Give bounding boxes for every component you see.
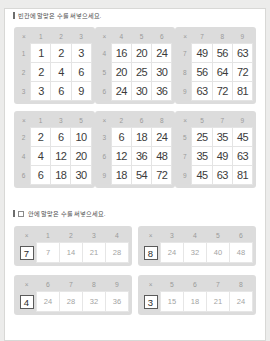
product-cell: 2 (31, 128, 51, 147)
multiplication-table: ×26836182461236489185472 (95, 111, 176, 188)
answer-input-box[interactable]: 4 (20, 295, 34, 309)
row-header: 6 (98, 147, 112, 166)
table-row: 2246 (17, 63, 91, 82)
column-header: 4 (184, 229, 207, 243)
column-header: 2 (60, 229, 83, 243)
product-cell: 6 (71, 63, 91, 82)
product-cell: 21 (83, 243, 106, 263)
product-cell: 36 (152, 82, 172, 101)
table-row: 9637281 (178, 82, 252, 101)
answer-cell-wrapper: 8 (141, 243, 161, 263)
section-one-heading: 빈칸에 알맞은 수를 써넣으세요. (5, 9, 265, 22)
product-cell: 25 (192, 128, 212, 147)
answer-input-box[interactable]: 8 (144, 246, 158, 260)
table-row: 5202530 (98, 63, 172, 82)
column-header: 6 (230, 229, 253, 243)
times-symbol-header: × (17, 229, 37, 243)
table-row: 6243036 (98, 82, 172, 101)
row-header: 5 (178, 128, 192, 147)
column-header: 6 (131, 114, 151, 128)
column-header: 1 (37, 229, 60, 243)
table-row: 9456381 (178, 166, 252, 185)
table-header-row: ×456 (98, 30, 172, 44)
multiplication-table: ×13522610441220661830 (14, 111, 95, 188)
product-cell: 18 (111, 166, 131, 185)
multiplication-table: ×789749566385664729637281 (175, 27, 256, 104)
worksheet-page: 빈칸에 알맞은 수를 써넣으세요. ×123112322463369 ×4564… (4, 8, 266, 341)
product-cell: 15 (161, 292, 184, 312)
fill-in-table: ×3456824324048 (138, 226, 256, 266)
product-cell: 18 (51, 166, 71, 185)
column-header: 5 (131, 30, 151, 44)
product-cell: 63 (212, 166, 232, 185)
product-cell: 35 (192, 147, 212, 166)
answer-input-box[interactable]: 3 (144, 295, 158, 309)
column-header: 7 (207, 278, 230, 292)
table-row: 361824 (98, 128, 172, 147)
column-header: 8 (230, 278, 253, 292)
row-header: 9 (178, 166, 192, 185)
row-header: 8 (178, 63, 192, 82)
table-row: 7495663 (178, 44, 252, 63)
column-header: 3 (51, 114, 71, 128)
product-cell: 20 (111, 63, 131, 82)
product-cell: 16 (111, 44, 131, 63)
table-header-row: ×3456 (141, 229, 253, 243)
section-two-heading: 안에 알맞은 수를 써넣으세요. (5, 207, 265, 220)
product-cell: 12 (51, 147, 71, 166)
product-cell: 24 (111, 82, 131, 101)
row-header: 2 (17, 128, 31, 147)
table-row: 7354963 (178, 147, 252, 166)
product-cell: 81 (232, 166, 252, 185)
product-cell: 25 (131, 63, 151, 82)
column-header: 6 (152, 30, 172, 44)
table-row: 661830 (17, 166, 91, 185)
product-cell: 9 (71, 82, 91, 101)
product-cell: 2 (31, 63, 51, 82)
product-cell: 40 (207, 243, 230, 263)
product-cell: 18 (184, 292, 207, 312)
column-header: 7 (60, 278, 83, 292)
multiplication-table: ×123112322463369 (14, 27, 95, 104)
table-header-row: ×579 (178, 114, 252, 128)
column-header: 4 (111, 30, 131, 44)
column-header: 5 (192, 114, 212, 128)
product-cell: 4 (31, 147, 51, 166)
product-cell: 28 (60, 292, 83, 312)
product-cell: 6 (51, 128, 71, 147)
table-header-row: ×789 (178, 30, 252, 44)
product-cell: 72 (152, 166, 172, 185)
product-cell: 14 (60, 243, 83, 263)
column-header: 8 (152, 114, 172, 128)
column-header: 3 (83, 229, 106, 243)
product-cell: 49 (212, 147, 232, 166)
product-cell: 63 (232, 147, 252, 166)
product-cell: 6 (111, 128, 131, 147)
product-cell: 72 (232, 63, 252, 82)
times-symbol-header: × (178, 114, 192, 128)
column-header: 5 (71, 114, 91, 128)
product-cell: 6 (31, 166, 51, 185)
product-cell: 3 (71, 44, 91, 63)
row-header: 6 (17, 166, 31, 185)
column-header: 9 (232, 114, 252, 128)
times-symbol-header: × (17, 30, 31, 44)
table-header-row: ×1234 (17, 229, 129, 243)
product-cell: 4 (51, 63, 71, 82)
fill-in-table: ×123477142128 (14, 226, 132, 266)
table-row: 5253545 (178, 128, 252, 147)
column-header: 6 (184, 278, 207, 292)
product-cell: 35 (212, 128, 232, 147)
product-cell: 20 (71, 147, 91, 166)
row-header: 6 (98, 82, 112, 101)
column-header: 6 (37, 278, 60, 292)
column-header: 5 (207, 229, 230, 243)
table-row: 8566472 (178, 63, 252, 82)
table-row: 1123 (17, 44, 91, 63)
row-header: 5 (98, 63, 112, 82)
multiplication-tables-row-2: ×13522610441220661830 ×26836182461236489… (5, 111, 265, 188)
product-cell: 24 (152, 128, 172, 147)
answer-input-box[interactable]: 7 (20, 246, 34, 260)
product-cell: 12 (111, 147, 131, 166)
row-header: 1 (17, 44, 31, 63)
